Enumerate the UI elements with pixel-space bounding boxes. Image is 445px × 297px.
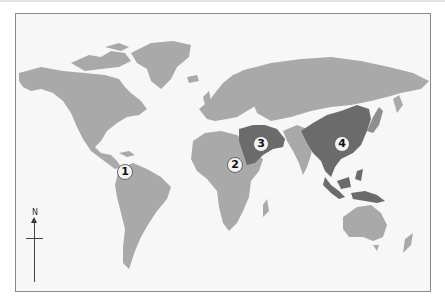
map-marker-3: 3 bbox=[253, 136, 269, 152]
map-marker-4: 4 bbox=[334, 136, 350, 152]
land-masses bbox=[19, 41, 429, 269]
map-frame: 1 2 3 4 bbox=[15, 13, 431, 292]
map-marker-1: 1 bbox=[117, 164, 133, 180]
top-rule bbox=[0, 0, 445, 2]
compass-crossbar bbox=[26, 238, 43, 239]
compass-line bbox=[34, 220, 35, 282]
highlighted-regions bbox=[239, 105, 385, 203]
world-map bbox=[16, 14, 431, 292]
compass-north-label: N bbox=[30, 208, 40, 217]
map-marker-2: 2 bbox=[227, 157, 243, 173]
north-arrow-compass: N bbox=[22, 208, 50, 286]
